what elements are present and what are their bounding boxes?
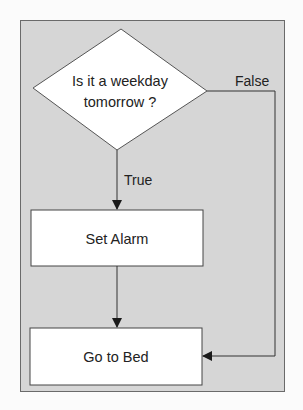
set-alarm-label: Set Alarm — [86, 231, 149, 247]
false-edge-label: False — [235, 73, 269, 89]
edge-true: True — [117, 150, 152, 209]
go-to-bed-node: Go to Bed — [30, 328, 202, 385]
decision-diamond-shape — [33, 29, 207, 150]
true-edge-label: True — [124, 172, 152, 188]
false-arrow — [203, 91, 275, 356]
decision-node: Is it a weekday tomorrow ? — [33, 29, 207, 150]
flowchart-canvas: Is it a weekday tomorrow ? True Set Alar… — [0, 0, 303, 410]
go-to-bed-label: Go to Bed — [83, 349, 148, 365]
decision-label-line-1: Is it a weekday — [72, 73, 169, 89]
flowchart-diagram: Is it a weekday tomorrow ? True Set Alar… — [0, 0, 303, 410]
edge-false: False — [203, 73, 275, 356]
decision-label-line-2: tomorrow ? — [84, 94, 157, 110]
set-alarm-node: Set Alarm — [31, 210, 203, 266]
